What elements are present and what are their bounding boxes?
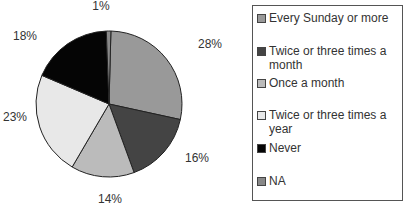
legend-swatch (257, 177, 266, 186)
legend-swatch (257, 79, 266, 88)
slice-percent-label: 28% (198, 37, 222, 51)
pie-chart: 28%16%14%23%18%1% (0, 0, 250, 213)
legend-item-every-sunday: Every Sunday or more (257, 11, 404, 25)
legend-label: Never (269, 141, 404, 155)
legend-swatch (257, 144, 266, 153)
legend-item-na: NA (257, 174, 404, 188)
legend-swatch (257, 111, 266, 120)
legend: Every Sunday or more Twice or three time… (252, 5, 403, 201)
slice-percent-label: 16% (185, 151, 209, 165)
legend-label: Once a month (269, 76, 404, 90)
legend-item-never: Never (257, 141, 404, 155)
legend-label: NA (269, 174, 404, 188)
legend-label: Every Sunday or more (269, 11, 404, 25)
legend-item-once-month: Once a month (257, 76, 404, 90)
legend-swatch (257, 47, 266, 56)
legend-label: Twice or three times a month (269, 44, 404, 72)
legend-item-twice-month: Twice or three times a month (257, 44, 404, 72)
legend-swatch (257, 14, 266, 23)
slice-percent-label: 14% (98, 192, 122, 206)
legend-label: Twice or three times a year (269, 108, 404, 136)
legend-item-twice-year: Twice or three times a year (257, 108, 404, 136)
slice-percent-label: 1% (92, 0, 110, 13)
slice-percent-label: 23% (3, 110, 27, 124)
slice-percent-label: 18% (13, 29, 37, 43)
